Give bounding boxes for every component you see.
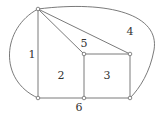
vertex-A [36,7,40,11]
face-label-1: 1 [29,48,36,61]
vertex-C [128,52,132,56]
vertex-F [128,96,132,100]
edge-outer-right [38,6,154,98]
vertex-D [36,96,40,100]
edge-A-B [38,9,84,54]
vertex-E [82,96,86,100]
vertex-B [82,52,86,56]
face-label-5: 5 [81,37,88,50]
planar-graph-diagram: 1 2 3 4 5 6 [0,0,158,117]
face-label-6: 6 [76,101,83,114]
face-label-2: 2 [58,69,65,82]
face-label-4: 4 [127,25,134,38]
face-label-3: 3 [104,69,111,82]
